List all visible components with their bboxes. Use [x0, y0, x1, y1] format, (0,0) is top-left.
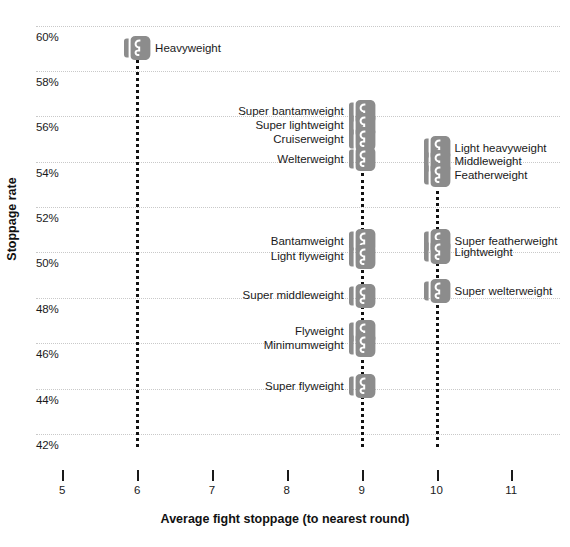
x-tick-label: 8: [267, 484, 307, 496]
x-axis: 567891011: [36, 452, 560, 502]
plot-area: 60%58%56%54%52%50%48%46%44%42% Heavyweig…: [36, 12, 560, 452]
boxing-glove-icon: [422, 162, 452, 188]
x-tick-label: 6: [117, 484, 157, 496]
x-tick-mark: [212, 470, 214, 481]
x-tick-label: 9: [342, 484, 382, 496]
gridline: [36, 26, 560, 27]
x-tick-mark: [511, 470, 513, 481]
data-point-label: Light heavyweight: [455, 142, 547, 155]
data-point-label: Super welterweight: [455, 285, 553, 298]
stem-line: [136, 55, 139, 447]
y-tick-label: 48%: [36, 303, 80, 315]
y-tick-label: 46%: [36, 348, 80, 360]
y-axis-title: Stoppage rate: [5, 139, 19, 299]
gridline: [36, 434, 560, 435]
x-tick-mark: [362, 470, 364, 481]
data-point-label: Cruiserweight: [273, 133, 343, 146]
x-tick-label: 5: [42, 484, 82, 496]
x-tick-label: 11: [491, 484, 531, 496]
gridline: [36, 71, 560, 72]
boxing-glove-icon: [122, 35, 152, 61]
stoppage-rate-scatter-chart: 60%58%56%54%52%50%48%46%44%42% Heavyweig…: [0, 0, 570, 547]
boxing-glove-icon: [347, 244, 377, 270]
stem-line: [361, 173, 364, 447]
y-tick-label: 42%: [36, 439, 80, 451]
data-point-label: Light flyweight: [271, 250, 344, 263]
data-point-label: Welterweight: [277, 153, 343, 166]
y-tick-label: 56%: [36, 121, 80, 133]
data-point-label: Featherweight: [455, 169, 528, 182]
x-tick-mark: [437, 470, 439, 481]
x-tick-mark: [62, 470, 64, 481]
data-point-label: Lightweight: [455, 246, 513, 259]
y-tick-label: 60%: [36, 31, 80, 43]
data-point-label: Super bantamweight: [238, 105, 343, 118]
x-tick-label: 7: [192, 484, 232, 496]
stem-line: [436, 184, 439, 447]
y-tick-label: 52%: [36, 212, 80, 224]
data-point-label: Middleweight: [455, 155, 522, 168]
x-axis-title: Average fight stoppage (to nearest round…: [0, 512, 570, 526]
data-point-label: Minimumweight: [264, 339, 344, 352]
y-tick-label: 54%: [36, 167, 80, 179]
boxing-glove-icon: [422, 278, 452, 304]
x-tick-mark: [137, 470, 139, 481]
data-point-label: Flyweight: [295, 325, 344, 338]
data-point-label: Super flyweight: [265, 380, 344, 393]
y-tick-label: 44%: [36, 394, 80, 406]
data-point-label: Super middleweight: [243, 289, 344, 302]
y-tick-label: 58%: [36, 76, 80, 88]
gridline: [36, 207, 560, 208]
y-tick-label: 50%: [36, 257, 80, 269]
x-tick-label: 10: [417, 484, 457, 496]
boxing-glove-icon: [347, 373, 377, 399]
data-point-label: Heavyweight: [155, 42, 221, 55]
boxing-glove-icon: [347, 332, 377, 358]
boxing-glove-icon: [422, 239, 452, 265]
data-point-label: Super lightweight: [255, 119, 343, 132]
boxing-glove-icon: [347, 283, 377, 309]
boxing-glove-icon: [347, 146, 377, 172]
data-point-label: Bantamweight: [271, 235, 344, 248]
x-tick-mark: [287, 470, 289, 481]
